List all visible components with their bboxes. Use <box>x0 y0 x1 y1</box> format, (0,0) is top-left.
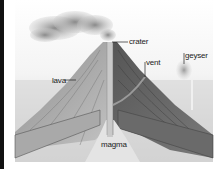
geyser-column <box>191 80 193 110</box>
label-vent: vent <box>146 58 160 67</box>
label-crater: crater <box>129 37 148 46</box>
label-geyser: geyser <box>185 51 208 60</box>
label-magma: magma <box>101 140 127 149</box>
central-vent-conduit <box>107 42 113 137</box>
label-lava: lava <box>52 76 66 85</box>
